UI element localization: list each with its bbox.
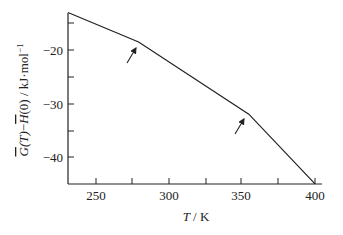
x-tick-label: 250: [86, 188, 106, 203]
arrow-icon: [127, 48, 136, 63]
x-axis-label: T / K: [183, 209, 210, 224]
y-tick-label: −30: [43, 97, 63, 112]
axes: [68, 13, 322, 184]
data-line: [68, 13, 315, 184]
y-axis-label: G(T)−H(0) / kJ·mol−1: [15, 44, 31, 157]
x-tick-label: 300: [159, 188, 179, 203]
y-tick-label: −20: [43, 43, 63, 58]
y-ticks: [68, 23, 74, 157]
x-tick-labels: 250 300 350 400: [86, 188, 325, 203]
x-tick-label: 350: [231, 188, 251, 203]
x-ticks: [96, 178, 315, 184]
y-tick-label: −40: [43, 150, 63, 165]
y-tick-labels: −20 −30 −40: [43, 43, 63, 165]
x-tick-label: 400: [305, 188, 325, 203]
arrow-icon: [235, 119, 244, 134]
chart: −20 −30 −40 250 300 350 400 T / K G(T)−H…: [0, 0, 343, 235]
